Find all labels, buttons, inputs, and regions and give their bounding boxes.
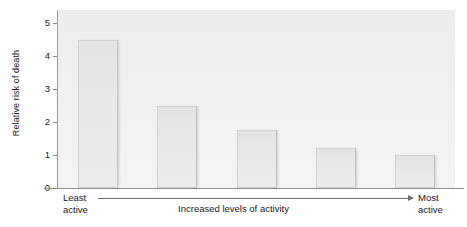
bar xyxy=(316,148,356,188)
y-axis-tick-label: 4 xyxy=(45,51,53,61)
y-axis-tick-label: 5 xyxy=(45,18,53,28)
x-axis-arrow-head-icon xyxy=(408,195,414,201)
y-axis-tick-label: 2 xyxy=(45,117,53,127)
bar-chart-figure: Relative risk of death 012345 Least acti… xyxy=(0,0,467,227)
x-axis-caption: Increased levels of activity xyxy=(0,203,467,214)
x-axis-line xyxy=(44,188,464,189)
y-axis-tick-label: 1 xyxy=(45,150,53,160)
x-axis-annotation: Least active Most active Increased level… xyxy=(0,190,467,227)
x-axis-arrow-line xyxy=(98,198,410,199)
bars-layer xyxy=(58,10,455,188)
bar xyxy=(78,40,118,188)
x-axis-right-end-label-line1: Most xyxy=(418,192,439,203)
x-axis-left-end-label-line1: Least xyxy=(63,192,86,203)
bar xyxy=(157,106,197,188)
y-axis-tick-label: 3 xyxy=(45,84,53,94)
bar xyxy=(395,155,435,188)
bar xyxy=(237,130,277,188)
